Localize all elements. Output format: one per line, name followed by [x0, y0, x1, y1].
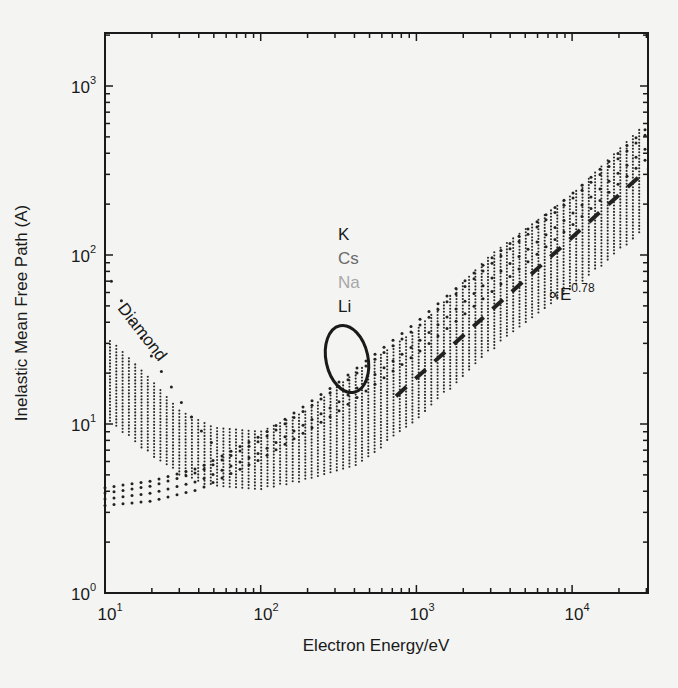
x-tick-label-100: 102: [253, 603, 278, 625]
chart-plot: [0, 0, 678, 688]
highlight-ellipse: [319, 321, 374, 396]
axes: [105, 33, 648, 593]
x-tick-label-10000: 104: [564, 603, 589, 625]
y-tick-label-1: 100: [71, 583, 96, 605]
cs-label: Cs: [338, 250, 359, 267]
y-tick-label-10: 101: [71, 414, 96, 436]
x-axis-title: Electron Energy/eV: [303, 636, 449, 656]
k-label: K: [338, 226, 349, 243]
x-tick-label-10: 101: [97, 603, 122, 625]
x-tick-label-1000: 103: [409, 603, 434, 625]
na-label: Na: [338, 274, 360, 291]
li-label: Li: [338, 298, 351, 315]
y-tick-label-100: 102: [71, 245, 96, 267]
power-law-label: ∝E0.78: [548, 283, 595, 303]
data-points: [104, 128, 648, 507]
y-tick-label-1000: 103: [71, 76, 96, 98]
y-axis-title: Inelastic Mean Free Path (A): [12, 205, 32, 421]
